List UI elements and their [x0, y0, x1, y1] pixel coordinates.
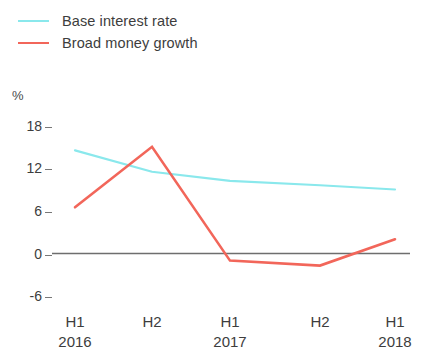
x-axis-tick: H2 [142, 312, 161, 332]
x-axis-tick-period: H2 [142, 312, 161, 332]
x-axis-tick-year: 2016 [58, 332, 91, 352]
x-axis-tick: H12016 [58, 312, 91, 352]
x-axis-tick: H12017 [213, 312, 246, 352]
x-axis-tick: H12018 [378, 312, 411, 352]
x-axis-tick-year: 2017 [213, 332, 246, 352]
x-axis-tick: H2 [310, 312, 329, 332]
plot-area [0, 0, 426, 356]
x-axis-tick-period: H1 [58, 312, 91, 332]
x-axis-tick-period: H2 [310, 312, 329, 332]
chart-figure: Base interest rate Broad money growth % … [0, 0, 426, 356]
x-axis-tick-year: 2018 [378, 332, 411, 352]
x-axis-tick-period: H1 [378, 312, 411, 332]
x-axis-tick-period: H1 [213, 312, 246, 332]
